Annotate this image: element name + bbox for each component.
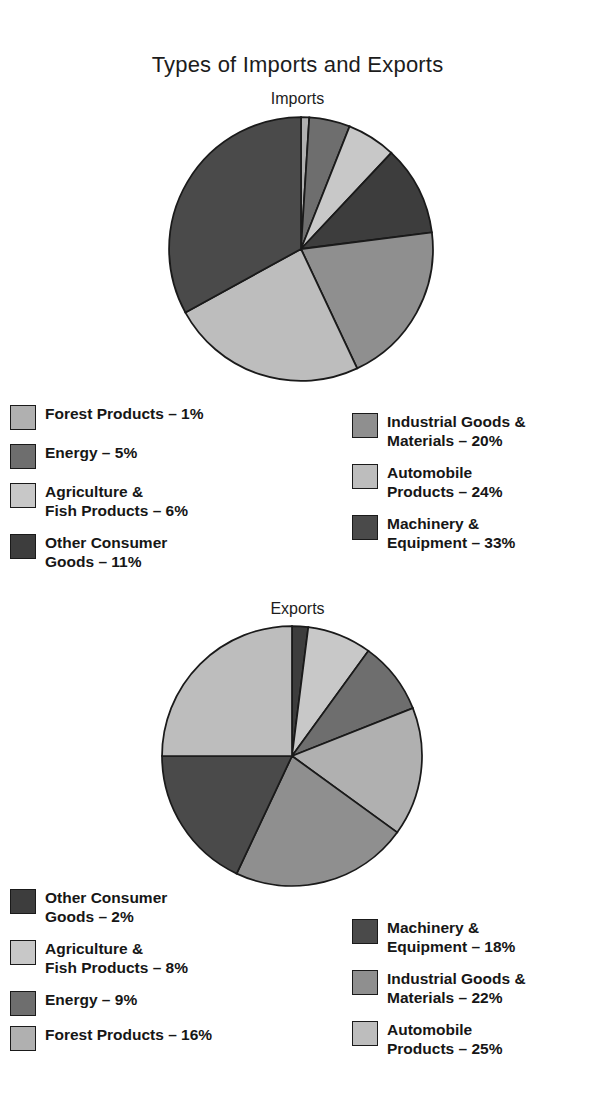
- legend-item-label: Forest Products – 16%: [45, 1025, 212, 1044]
- exports-slice-automobile-products: [162, 626, 292, 756]
- legend-item-label: Agriculture & Fish Products – 8%: [45, 939, 188, 977]
- legend-swatch-energy: [10, 991, 36, 1016]
- imports-legend-left: Forest Products – 1%Energy – 5%Agricultu…: [10, 404, 300, 584]
- legend-item: Machinery & Equipment – 33%: [352, 514, 592, 552]
- exports-legend-right: Machinery & Equipment – 18%Industrial Go…: [352, 918, 592, 1071]
- legend-swatch-automobile-products: [352, 464, 378, 489]
- legend-item-label: Energy – 9%: [45, 990, 137, 1009]
- imports-pie-chart: [165, 113, 437, 385]
- legend-swatch-forest-products: [10, 405, 36, 430]
- legend-swatch-agriculture-fish-products: [10, 940, 36, 965]
- legend-item-label: Automobile Products – 24%: [387, 463, 502, 501]
- legend-item-label: Other Consumer Goods – 2%: [45, 888, 167, 926]
- legend-item-label: Machinery & Equipment – 18%: [387, 918, 515, 956]
- legend-item-label: Other Consumer Goods – 11%: [45, 533, 167, 571]
- legend-item-label: Forest Products – 1%: [45, 404, 204, 423]
- legend-item: Industrial Goods & Materials – 20%: [352, 412, 592, 450]
- legend-item-label: Industrial Goods & Materials – 22%: [387, 969, 526, 1007]
- legend-item: Other Consumer Goods – 11%: [10, 533, 300, 571]
- legend-item-label: Agriculture & Fish Products – 6%: [45, 482, 188, 520]
- legend-item-label: Machinery & Equipment – 33%: [387, 514, 515, 552]
- imports-pie-svg: [165, 113, 437, 385]
- legend-item: Other Consumer Goods – 2%: [10, 888, 300, 926]
- imports-pie-slices: [169, 117, 433, 381]
- imports-legend-right: Industrial Goods & Materials – 20%Automo…: [352, 412, 592, 565]
- legend-swatch-machinery-equipment: [352, 919, 378, 944]
- page-title: Types of Imports and Exports: [0, 52, 595, 78]
- legend-swatch-other-consumer-goods: [10, 534, 36, 559]
- legend-item-label: Industrial Goods & Materials – 20%: [387, 412, 526, 450]
- legend-item: Energy – 9%: [10, 990, 300, 1016]
- legend-swatch-industrial-goods-materials: [352, 413, 378, 438]
- legend-item-label: Automobile Products – 25%: [387, 1020, 502, 1058]
- imports-chart-subtitle: Imports: [0, 90, 595, 108]
- legend-item: Machinery & Equipment – 18%: [352, 918, 592, 956]
- legend-item: Forest Products – 16%: [10, 1025, 300, 1051]
- legend-swatch-agriculture-fish-products: [10, 483, 36, 508]
- legend-swatch-automobile-products: [352, 1021, 378, 1046]
- legend-item: Automobile Products – 25%: [352, 1020, 592, 1058]
- legend-item-label: Energy – 5%: [45, 443, 137, 462]
- legend-swatch-forest-products: [10, 1026, 36, 1051]
- legend-item: Forest Products – 1%: [10, 404, 300, 430]
- legend-item: Industrial Goods & Materials – 22%: [352, 969, 592, 1007]
- legend-item: Automobile Products – 24%: [352, 463, 592, 501]
- legend-item: Agriculture & Fish Products – 8%: [10, 939, 300, 977]
- legend-swatch-machinery-equipment: [352, 515, 378, 540]
- exports-pie-svg: [158, 622, 426, 890]
- exports-chart-subtitle: Exports: [0, 600, 595, 618]
- exports-pie-slices: [162, 626, 422, 886]
- legend-swatch-energy: [10, 444, 36, 469]
- exports-legend-left: Other Consumer Goods – 2%Agriculture & F…: [10, 888, 300, 1060]
- legend-swatch-industrial-goods-materials: [352, 970, 378, 995]
- exports-pie-chart: [158, 622, 426, 890]
- chart-page: Types of Imports and Exports Imports For…: [0, 0, 595, 1094]
- legend-swatch-other-consumer-goods: [10, 889, 36, 914]
- legend-item: Energy – 5%: [10, 443, 300, 469]
- legend-item: Agriculture & Fish Products – 6%: [10, 482, 300, 520]
